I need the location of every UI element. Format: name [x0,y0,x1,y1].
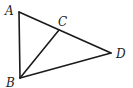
segment-bd [20,53,111,78]
geometry-diagram: A C D B [0,0,133,88]
segment-bc [20,30,59,78]
point-label-d: D [115,47,126,61]
point-label-a: A [4,4,14,18]
point-label-c: C [58,15,67,29]
point-label-b: B [5,76,15,88]
segment-ab [19,12,20,78]
